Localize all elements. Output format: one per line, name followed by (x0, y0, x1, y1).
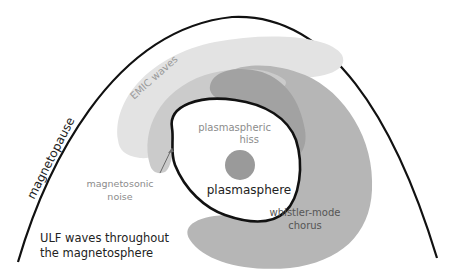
diagram-canvas: magnetopause EMIC waves plasmaspheric hi… (0, 0, 454, 278)
hiss-label-line1: plasmaspheric (198, 122, 271, 133)
ulf-label-line2: the magnetosphere (40, 246, 153, 260)
magnetosonic-label-line1: magnetosonic (86, 178, 153, 189)
plasmasphere-label: plasmasphere (207, 183, 292, 197)
magnetosonic-label-line2: noise (107, 191, 132, 202)
ulf-label-line1: ULF waves throughout (40, 231, 170, 245)
magnetosphere-diagram: magnetopause EMIC waves plasmaspheric hi… (0, 0, 454, 278)
chorus-label-line2: chorus (288, 220, 322, 231)
hiss-label-line2: hiss (239, 134, 259, 145)
magnetopause-label: magnetopause (24, 115, 77, 201)
chorus-label-line1: whistler-mode (270, 207, 341, 218)
earth-icon (225, 150, 255, 180)
